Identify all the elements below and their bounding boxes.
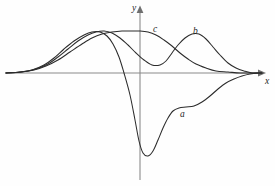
x-axis-label: x	[265, 77, 269, 87]
curve-a-path	[6, 32, 262, 157]
curve-label-c: c	[153, 25, 157, 35]
y-axis-label: y	[132, 4, 136, 14]
plot-canvas	[0, 0, 275, 186]
y-axis-arrow-icon	[137, 6, 144, 14]
curve-c-path	[6, 31, 262, 73]
curve-label-a: a	[180, 110, 185, 120]
curve-figure: c b a x y	[0, 0, 275, 186]
curve-label-b: b	[193, 27, 198, 37]
